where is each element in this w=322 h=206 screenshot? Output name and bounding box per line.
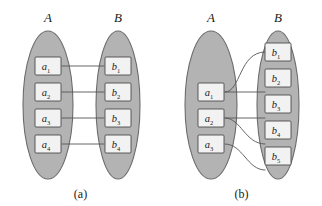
node-b-b2: b2 xyxy=(265,69,291,87)
node-b-a1: a1 xyxy=(198,83,224,101)
node-a1: a1 xyxy=(35,57,61,75)
set-mapping-figure: A B a1 a2 a3 xyxy=(0,0,322,206)
node-b3: b3 xyxy=(105,109,131,127)
caption-a: (a) xyxy=(0,187,161,202)
ellipse-set-b-left xyxy=(185,31,237,179)
diagram-a: A B a1 a2 a3 xyxy=(0,0,161,206)
node-b2: b2 xyxy=(105,83,131,101)
set-label-a-left: A xyxy=(43,10,52,25)
ellipse-set-a-right xyxy=(96,31,140,179)
node-b-b3: b3 xyxy=(265,95,291,113)
node-a2: a2 xyxy=(35,83,61,101)
set-label-b-left: A xyxy=(206,10,215,25)
node-b-b5: b5 xyxy=(265,147,291,165)
panel-a: A B a1 a2 a3 xyxy=(0,0,161,206)
node-b-b1: b1 xyxy=(265,43,291,61)
set-label-b-right: B xyxy=(274,10,282,25)
node-b-b4: b4 xyxy=(265,121,291,139)
panel-b: A B a1 a2 a3 xyxy=(161,0,322,206)
caption-b: (b) xyxy=(161,187,322,202)
ellipse-set-a-left xyxy=(23,31,73,179)
node-b-a3: a3 xyxy=(198,135,224,153)
set-label-a-right: B xyxy=(114,10,122,25)
node-b1: b1 xyxy=(105,57,131,75)
node-b4: b4 xyxy=(105,135,131,153)
diagram-b: A B a1 a2 a3 xyxy=(161,0,322,206)
node-b-a2: a2 xyxy=(198,109,224,127)
node-a4: a4 xyxy=(35,135,61,153)
node-a3: a3 xyxy=(35,109,61,127)
